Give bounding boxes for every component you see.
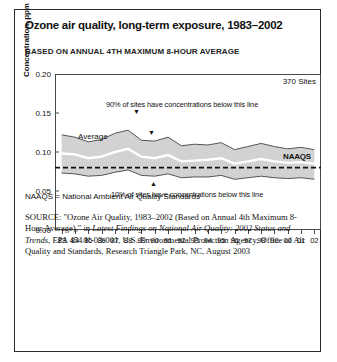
figure-box: Ozone air quality, long-term exposure, 1… bbox=[14, 9, 321, 352]
figure-title: Ozone air quality, long-term exposure, 1… bbox=[25, 19, 315, 32]
source-label: SOURCE: bbox=[25, 212, 61, 222]
x-tick-mark bbox=[314, 230, 315, 234]
annotation-lower-arrow: ▲ bbox=[150, 181, 157, 187]
chart-series-svg bbox=[55, 74, 321, 230]
y-axis-label: Concentration, ppm bbox=[22, 0, 31, 96]
figure-subtitle: BASED ON ANNUAL 4TH MAXIMUM 8-HOUR AVERA… bbox=[25, 47, 315, 56]
naaqs-footnote: NAAQS = National Ambient Air Quality Sta… bbox=[25, 192, 200, 201]
average-arrow: ▼ bbox=[148, 130, 155, 136]
naaqs-label: NAAQS bbox=[283, 152, 311, 161]
annotation-upper: 90% of sites have concentrations below t… bbox=[106, 100, 258, 109]
source-note: SOURCE: "Ozone Air Quality, 1983–2002 (B… bbox=[25, 212, 312, 258]
y-tick-label: 0.10 bbox=[35, 148, 51, 157]
source-part2: , EPA 454/K-03-001, U.S. Environmental P… bbox=[25, 235, 305, 256]
average-label: Average bbox=[78, 132, 108, 141]
y-tick-label: 0.20 bbox=[35, 70, 51, 79]
y-tick-label: 0.15 bbox=[35, 109, 51, 118]
chart-plot-area: Concentration, ppm 0.000.050.100.150.20 … bbox=[55, 74, 321, 230]
annotation-upper-arrow: ▼ bbox=[133, 109, 140, 115]
figure-page: Ozone air quality, long-term exposure, 1… bbox=[0, 0, 337, 362]
